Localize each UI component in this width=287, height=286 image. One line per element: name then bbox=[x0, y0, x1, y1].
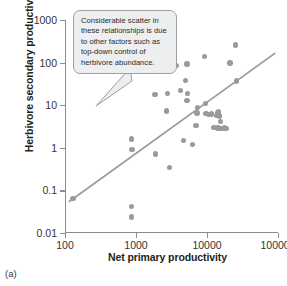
data-point bbox=[165, 91, 170, 96]
data-point bbox=[152, 92, 157, 97]
y-tick bbox=[60, 105, 65, 106]
data-point bbox=[218, 119, 223, 124]
data-point bbox=[185, 91, 190, 96]
y-tick bbox=[60, 20, 65, 21]
x-tick-label: 1000 bbox=[124, 239, 147, 251]
data-point bbox=[194, 110, 199, 115]
data-point bbox=[190, 142, 195, 147]
callout-text: Considerable scatter in these relationsh… bbox=[81, 16, 167, 67]
y-tick-label: 10 bbox=[45, 99, 57, 111]
data-point bbox=[70, 196, 75, 201]
data-point bbox=[129, 214, 134, 219]
data-point bbox=[227, 60, 232, 65]
x-tick-label: 100 bbox=[56, 239, 74, 251]
x-tick bbox=[278, 233, 279, 238]
y-tick-label: 1000 bbox=[34, 14, 57, 26]
x-axis-title: Net primary productivity bbox=[60, 251, 275, 263]
x-tick bbox=[136, 233, 137, 238]
figure-panel: Herbivore secondary productivity Net pri… bbox=[0, 0, 287, 286]
x-tick-label: 10000 bbox=[192, 239, 221, 251]
data-point bbox=[233, 42, 238, 47]
data-point bbox=[164, 108, 169, 113]
data-point bbox=[184, 61, 189, 66]
y-tick bbox=[60, 63, 65, 64]
y-tick bbox=[60, 190, 65, 191]
data-point bbox=[234, 78, 239, 83]
x-tick-label: 100000 bbox=[260, 239, 287, 251]
y-tick-label: 0.1 bbox=[42, 184, 57, 196]
data-point bbox=[217, 113, 222, 118]
x-tick bbox=[207, 233, 208, 238]
y-tick-label: 100 bbox=[39, 57, 57, 69]
data-point bbox=[184, 98, 189, 103]
y-tick-label: 1 bbox=[51, 142, 57, 154]
y-tick bbox=[60, 148, 65, 149]
y-tick-label: 0.01 bbox=[37, 227, 57, 239]
x-tick bbox=[65, 233, 66, 238]
callout-bubble: Considerable scatter in these relationsh… bbox=[73, 10, 177, 74]
panel-letter: (a) bbox=[5, 268, 17, 279]
